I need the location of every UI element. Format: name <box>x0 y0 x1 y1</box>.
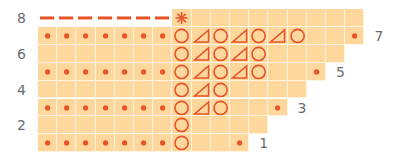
chart-cell <box>268 81 287 99</box>
decrease-triangle-icon <box>192 81 211 99</box>
dot-icon <box>153 27 172 45</box>
chart-cell <box>249 116 268 134</box>
chart-cell <box>115 116 134 134</box>
dash-icon <box>57 9 76 27</box>
chart-cell <box>192 116 211 134</box>
dot-icon <box>134 27 153 45</box>
dot-icon <box>96 99 115 117</box>
chart-cell <box>57 45 76 63</box>
chart-cell <box>153 45 172 63</box>
dot-icon <box>38 134 57 152</box>
yarn-over-circle-icon <box>172 99 191 117</box>
dot-icon <box>230 134 249 152</box>
chart-cell <box>38 81 57 99</box>
dot-icon <box>76 99 95 117</box>
row-label-2: 2 <box>17 116 26 134</box>
row-label-3: 3 <box>298 99 307 117</box>
dot-icon <box>38 99 57 117</box>
yarn-over-circle-icon <box>249 45 268 63</box>
asterisk-icon <box>172 9 191 27</box>
chart-cell <box>96 81 115 99</box>
chart-cell <box>134 45 153 63</box>
chart-cell <box>249 81 268 99</box>
decrease-triangle-icon <box>268 27 287 45</box>
chart-cell <box>96 116 115 134</box>
dot-icon <box>115 99 134 117</box>
chart-cell <box>230 116 249 134</box>
dot-icon <box>76 63 95 81</box>
dot-icon <box>57 134 76 152</box>
row-label-8: 8 <box>17 9 26 27</box>
yarn-over-circle-icon <box>172 27 191 45</box>
dash-icon <box>76 9 95 27</box>
chart-cell <box>115 45 134 63</box>
chart-cell <box>76 45 95 63</box>
dot-icon <box>134 63 153 81</box>
row-label-6: 6 <box>17 45 26 63</box>
dot-icon <box>268 99 287 117</box>
chart-cell <box>192 134 211 152</box>
yarn-over-circle-icon <box>211 63 230 81</box>
chart-cell <box>288 9 307 27</box>
dot-icon <box>57 27 76 45</box>
yarn-over-circle-icon <box>249 27 268 45</box>
chart-cell <box>249 9 268 27</box>
yarn-over-circle-icon <box>211 45 230 63</box>
dot-icon <box>57 99 76 117</box>
chart-cell <box>96 45 115 63</box>
chart-cell <box>307 9 326 27</box>
decrease-triangle-icon <box>192 63 211 81</box>
row-label-5: 5 <box>336 63 345 81</box>
yarn-over-circle-icon <box>172 134 191 152</box>
chart-cell <box>288 81 307 99</box>
chart-cell <box>38 45 57 63</box>
decrease-triangle-icon <box>192 27 211 45</box>
chart-cell <box>134 116 153 134</box>
chart-cell <box>153 81 172 99</box>
dash-icon <box>153 9 172 27</box>
row-label-4: 4 <box>17 81 26 99</box>
dot-icon <box>153 134 172 152</box>
chart-cell <box>230 99 249 117</box>
dash-icon <box>115 9 134 27</box>
dash-icon <box>38 9 57 27</box>
chart-cell <box>268 45 287 63</box>
chart-cell <box>268 9 287 27</box>
decrease-triangle-icon <box>230 63 249 81</box>
yarn-over-circle-icon <box>172 81 191 99</box>
dot-icon <box>115 134 134 152</box>
dot-icon <box>345 27 364 45</box>
yarn-over-circle-icon <box>249 63 268 81</box>
chart-cell <box>211 9 230 27</box>
yarn-over-circle-icon <box>211 81 230 99</box>
yarn-over-circle-icon <box>172 45 191 63</box>
chart-cell <box>76 81 95 99</box>
row-label-1: 1 <box>259 134 268 152</box>
chart-cell <box>57 116 76 134</box>
decrease-triangle-icon <box>192 99 211 117</box>
chart-cell <box>307 45 326 63</box>
row-label-7: 7 <box>374 27 383 45</box>
chart-cell <box>115 81 134 99</box>
decrease-triangle-icon <box>230 27 249 45</box>
dot-icon <box>115 27 134 45</box>
chart-cell <box>230 81 249 99</box>
dot-icon <box>57 63 76 81</box>
dot-icon <box>134 99 153 117</box>
stitch-chart: 87654321 <box>0 0 397 160</box>
chart-cell <box>211 134 230 152</box>
chart-cell <box>57 81 76 99</box>
chart-cell <box>326 45 345 63</box>
chart-cell <box>192 9 211 27</box>
dash-icon <box>96 9 115 27</box>
chart-cell <box>153 116 172 134</box>
dot-icon <box>153 99 172 117</box>
chart-cell <box>76 116 95 134</box>
yarn-over-circle-icon <box>172 63 191 81</box>
dot-icon <box>38 63 57 81</box>
chart-cell <box>288 45 307 63</box>
chart-cell <box>134 81 153 99</box>
yarn-over-circle-icon <box>288 27 307 45</box>
chart-cell <box>345 9 364 27</box>
chart-cell <box>307 27 326 45</box>
